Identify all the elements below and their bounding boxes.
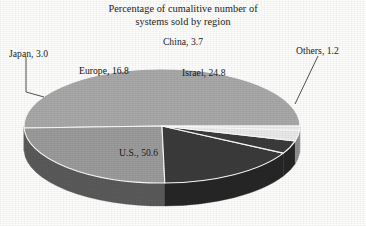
pie-graphic <box>0 0 366 226</box>
slice-label-others: Others, 1.2 <box>296 45 339 56</box>
slice-label-us: U.S., 50.6 <box>119 147 158 158</box>
slice-label-israel: Israel, 24.8 <box>182 67 226 78</box>
slice-label-japan: Japan, 3.0 <box>9 48 48 59</box>
pie-slice-us <box>24 69 300 128</box>
slice-label-europe: Europe, 16.8 <box>79 65 129 76</box>
leader-line-others <box>295 56 318 104</box>
leader-line-japan-2 <box>26 92 44 97</box>
pie-chart-figure: Percentage of cumalitive number of syste… <box>0 0 366 226</box>
